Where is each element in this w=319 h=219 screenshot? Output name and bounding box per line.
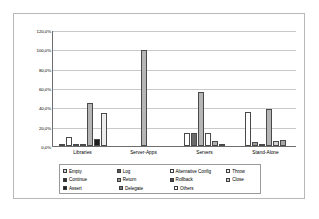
- bar-group: [235, 31, 296, 146]
- legend-swatch-icon: [170, 178, 174, 182]
- x-axis-tick-label: Stand-Alone: [235, 150, 296, 160]
- legend-item[interactable]: Others: [174, 186, 233, 191]
- legend-row: EmptyLogAlternative ConfigThrow: [63, 167, 257, 176]
- bar[interactable]: [80, 144, 86, 146]
- legend-item-label: Close: [232, 177, 244, 182]
- bar[interactable]: [205, 133, 211, 146]
- bar[interactable]: [94, 139, 100, 146]
- legend-swatch-icon: [170, 169, 174, 173]
- legend-swatch-icon: [174, 186, 178, 190]
- y-axis-tick-label: 20,0%: [39, 125, 51, 130]
- x-axis-tick-label: Server-Apps: [113, 150, 174, 160]
- bar[interactable]: [184, 133, 190, 146]
- y-axis-tick-label: 40,0%: [39, 106, 51, 111]
- y-axis: 120,0%100,0%80,0%60,0%40,0%20,0%0,0%: [18, 31, 51, 147]
- legend-swatch-icon: [63, 169, 67, 173]
- y-axis-tick-label: 60,0%: [39, 87, 51, 92]
- y-axis-tick-label: 80,0%: [39, 67, 51, 72]
- legend-row: ContinueReturnRollbackClose: [63, 176, 257, 185]
- bar[interactable]: [191, 133, 197, 146]
- legend-item[interactable]: Continue: [63, 177, 117, 182]
- legend-swatch-icon: [63, 186, 67, 190]
- bar[interactable]: [198, 92, 204, 146]
- legend-swatch-icon: [63, 178, 67, 182]
- bar-group: [53, 31, 114, 146]
- x-axis-tick-label: Libraries: [52, 150, 113, 160]
- bar[interactable]: [219, 144, 225, 146]
- legend-item-label: Assert: [69, 186, 82, 191]
- legend-item[interactable]: Rollback: [170, 177, 227, 182]
- bar[interactable]: [73, 144, 79, 146]
- legend-item[interactable]: Log: [117, 169, 170, 174]
- legend-item-label: Alternative Config: [176, 169, 211, 174]
- bar-groups: [53, 31, 296, 146]
- legend-item-label: Rollback: [176, 177, 193, 182]
- legend-item[interactable]: Close: [226, 177, 257, 182]
- bar[interactable]: [101, 113, 107, 146]
- bar[interactable]: [259, 144, 265, 146]
- bar[interactable]: [66, 137, 72, 146]
- y-axis-tick-label: 100,0%: [37, 48, 51, 53]
- bar[interactable]: [212, 141, 218, 146]
- legend-item-label: Log: [123, 169, 131, 174]
- legend-swatch-icon: [226, 169, 230, 173]
- legend-row: AssertDelegateOthers: [63, 184, 257, 193]
- legend-item-label: Continue: [69, 177, 87, 182]
- legend-item-label: Delegate: [125, 186, 143, 191]
- chart-frame: 120,0%100,0%80,0%60,0%40,0%20,0%0,0% Lib…: [13, 13, 305, 199]
- x-axis-tick-label: Servers: [174, 150, 235, 160]
- chart-legend: EmptyLogAlternative ConfigThrowContinueR…: [59, 164, 261, 194]
- legend-swatch-icon: [117, 169, 121, 173]
- bar[interactable]: [245, 112, 251, 146]
- bar-group: [114, 31, 175, 146]
- bar[interactable]: [266, 109, 272, 146]
- legend-swatch-icon: [117, 178, 121, 182]
- legend-item-label: Empty: [69, 169, 82, 174]
- y-axis-tick-label: 120,0%: [37, 29, 51, 34]
- bar[interactable]: [87, 103, 93, 146]
- bar[interactable]: [59, 144, 65, 146]
- legend-item[interactable]: Alternative Config: [170, 169, 227, 174]
- legend-item[interactable]: Return: [117, 177, 170, 182]
- bar-group: [175, 31, 236, 146]
- legend-item-label: Return: [123, 177, 137, 182]
- bar[interactable]: [280, 140, 286, 146]
- legend-item-label: Throw: [232, 169, 245, 174]
- chart-plot-wrapper: 120,0%100,0%80,0%60,0%40,0%20,0%0,0% Lib…: [14, 14, 306, 200]
- x-axis: LibrariesServer-AppsServersStand-Alone: [52, 150, 296, 160]
- legend-swatch-icon: [226, 178, 230, 182]
- legend-item[interactable]: Throw: [226, 169, 257, 174]
- plot-area: [52, 31, 296, 147]
- legend-swatch-icon: [119, 186, 123, 190]
- y-axis-tick-label: 0,0%: [41, 145, 51, 150]
- legend-item[interactable]: Delegate: [119, 186, 174, 191]
- bar[interactable]: [273, 141, 279, 146]
- legend-item[interactable]: Empty: [63, 169, 117, 174]
- bar[interactable]: [252, 142, 258, 146]
- legend-item-label: Others: [180, 186, 194, 191]
- legend-item[interactable]: Assert: [63, 186, 119, 191]
- bar[interactable]: [141, 50, 147, 146]
